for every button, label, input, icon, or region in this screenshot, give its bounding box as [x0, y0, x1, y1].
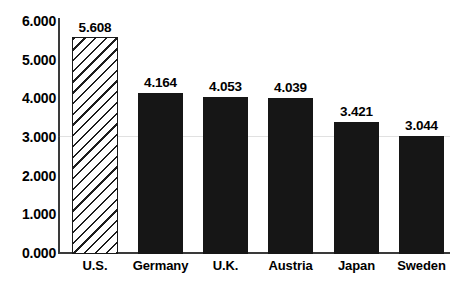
bar-sweden[interactable] [399, 136, 444, 254]
y-tick-label: 3.000 [2, 130, 56, 144]
bar-group-austria: 4.039 Austria [268, 12, 313, 254]
bar-value-label: 3.421 [330, 105, 384, 119]
category-label-sweden: Sweden [386, 259, 458, 273]
category-label-austria: Austria [255, 259, 327, 273]
bar-group-sweden: 3.044 Sweden [399, 12, 444, 254]
bar-group-germany: 4.164 Germany [138, 12, 183, 254]
category-label-us: U.S. [58, 259, 132, 273]
category-label-germany: Germany [125, 259, 197, 273]
category-label-japan: Japan [321, 259, 393, 273]
bar-value-label: 4.039 [264, 81, 318, 95]
y-tick-label: 0.000 [2, 246, 56, 260]
y-tick-label: 5.000 [2, 53, 56, 67]
y-axis-tick-labels: 6.000 5.000 4.000 3.000 2.000 1.000 0.00… [0, 0, 56, 287]
bar-uk[interactable] [203, 97, 248, 254]
bar-us[interactable] [72, 37, 118, 254]
bar-germany[interactable] [138, 93, 183, 254]
bar-value-label: 3.044 [395, 119, 449, 133]
y-tick-label: 4.000 [2, 91, 56, 105]
category-label-uk: U.K. [190, 259, 262, 273]
bar-group-uk: 4.053 U.K. [203, 12, 248, 254]
bar-value-label: 4.164 [134, 76, 188, 90]
bar-group-us: 5.608 U.S. [72, 12, 118, 254]
y-tick-label: 2.000 [2, 169, 56, 183]
bar-austria[interactable] [268, 98, 313, 254]
bar-japan[interactable] [334, 122, 379, 254]
bar-chart: 6.000 5.000 4.000 3.000 2.000 1.000 0.00… [0, 0, 468, 287]
plot-area: 5.608 U.S. 4.164 Germany 4.053 U.K. 4.03… [58, 12, 450, 254]
bar-value-label: 5.608 [67, 21, 122, 35]
y-tick-label: 1.000 [2, 207, 56, 221]
y-tick-label: 6.000 [2, 14, 56, 28]
bar-value-label: 4.053 [199, 80, 253, 94]
bar-group-japan: 3.421 Japan [334, 12, 379, 254]
